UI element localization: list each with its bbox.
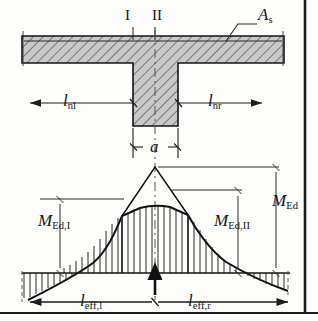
rebar-area-symbol: A (258, 5, 268, 24)
section-marker-ii: II (152, 8, 162, 23)
section-marker-i: I (125, 8, 130, 23)
effective-length-left-label: leff,l (80, 292, 102, 311)
moment-right-symbol: M (214, 211, 228, 230)
moment-right-subscript: Ed,II (228, 220, 250, 231)
moment-peak-subscript: Ed (286, 200, 298, 211)
effective-length-dimensions (30, 298, 288, 306)
rebar-area-subscript: s (268, 14, 272, 25)
t-beam-section (22, 31, 284, 126)
effective-length-right-label: leff,r (188, 292, 211, 311)
structural-moment-figure: I II As lnl lnr a MEd,I MEd,II MEd leff,… (0, 0, 318, 321)
moment-hatch-fill (64, 205, 236, 273)
support-reaction-arrow (148, 262, 163, 295)
moment-left-symbol: M (38, 211, 52, 230)
clear-span-left-label: lnl (63, 92, 76, 111)
moment-left-subscript: Ed,I (52, 220, 70, 231)
effective-length-left-subscript: eff,l (85, 300, 103, 311)
effective-length-right-subscript: eff,r (193, 300, 211, 311)
moment-left-label: MEd,I (38, 212, 70, 231)
web-width-label: a (150, 138, 159, 155)
figure-canvas (0, 0, 318, 321)
negative-tail-left (22, 271, 72, 302)
rebar-area-label: As (258, 6, 273, 25)
clear-span-right-label: lnr (208, 92, 222, 111)
clear-span-right-subscript: nr (213, 100, 222, 111)
moment-peak-symbol: M (272, 191, 286, 210)
moment-right-label: MEd,II (214, 212, 250, 231)
moment-peak-label: MEd (272, 192, 298, 211)
clear-span-left-subscript: nl (68, 100, 76, 111)
